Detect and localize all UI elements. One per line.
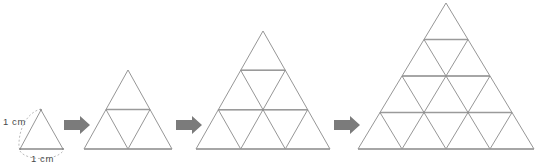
right-vertex-dot: [62, 148, 64, 150]
arrow-1-to-2: [64, 116, 90, 134]
stage-4-right-parallel-1: [402, 40, 468, 150]
base-dimension-label: 1 cm: [31, 153, 54, 164]
side-dimension-label: 1 cm: [3, 116, 26, 127]
stage-4-left-parallel-3: [380, 113, 402, 150]
stage-4-right-parallel-3: [490, 113, 512, 150]
arrow-3-to-4: [334, 116, 360, 134]
right-arrow-icon: [334, 116, 360, 134]
stage-1-triangle: 1 cm 1 cm: [3, 109, 64, 164]
right-arrow-icon: [176, 116, 202, 134]
stage-2-triangle: [84, 70, 172, 149]
left-vertex-dot: [19, 148, 21, 150]
stage-2-left-parallel-1: [106, 110, 128, 150]
triangle-sequence-figure: 1 cm 1 cm: [0, 0, 541, 165]
stage-4-triangle: [358, 3, 534, 149]
stage-2-right-parallel-1: [128, 110, 150, 150]
stage-3-triangle: [196, 31, 330, 149]
stage-4-left-parallel-1: [424, 40, 490, 150]
stage-3-left-parallel-2: [218, 110, 240, 149]
side-dimension-arc: [19, 109, 41, 148]
arrow-2-to-3: [176, 116, 202, 134]
apex-vertex-dot: [40, 109, 42, 111]
stage-3-right-parallel-2: [285, 110, 307, 149]
figure-canvas: 1 cm 1 cm: [0, 0, 541, 165]
right-arrow-icon: [64, 116, 90, 134]
stage-3-outline: [196, 31, 330, 149]
stage-1-outline: [20, 110, 63, 149]
